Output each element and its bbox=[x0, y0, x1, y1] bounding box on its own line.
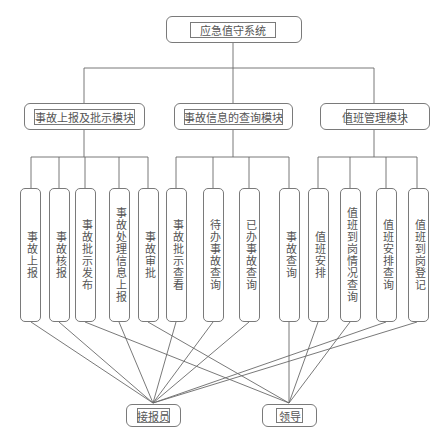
leaf-node-duty-schedule: 值班安排 bbox=[308, 188, 329, 322]
leaf-node-schedule-query: 值班安排查询 bbox=[376, 188, 397, 322]
actor-label-receiver: 接报员 bbox=[137, 408, 170, 423]
leaf-node-done-query: 已办事故查询 bbox=[239, 188, 260, 322]
leaf-label: 已办事故查询 bbox=[244, 219, 256, 291]
leaf-label: 值班安排查询 bbox=[381, 219, 393, 291]
leaf-node-incident-approve: 事故审批 bbox=[138, 188, 159, 322]
leaf-label: 事故查询 bbox=[284, 231, 296, 279]
leaf-node-instruction-publish: 事故批示发布 bbox=[75, 188, 96, 322]
module-label-incident-query: 事故信息的查询模块 bbox=[184, 109, 283, 125]
leaf-label: 事故批示发布 bbox=[80, 219, 92, 291]
leaf-node-pending-query: 待办事故查询 bbox=[203, 188, 224, 322]
actor-label-leader: 领导 bbox=[276, 408, 303, 423]
leaf-label: 事故核报 bbox=[54, 231, 66, 279]
leaf-label: 值班安排 bbox=[313, 231, 325, 279]
leaf-node-instruction-view: 事故批示查看 bbox=[166, 188, 187, 322]
leaf-label: 事故批示查看 bbox=[171, 219, 183, 291]
leaf-node-incident-report: 事故上报 bbox=[20, 188, 41, 322]
leaf-label: 事故处理信息上报 bbox=[114, 207, 126, 303]
leaf-label: 事故上报 bbox=[25, 231, 37, 279]
leaf-node-attendance-register: 值班到岗登记 bbox=[408, 188, 429, 322]
leaf-label: 事故审批 bbox=[143, 231, 155, 279]
leaf-node-incident-query: 事故查询 bbox=[279, 188, 300, 322]
root-node-label: 应急值守系统 bbox=[190, 22, 276, 38]
module-label-duty-management: 值班管理模块 bbox=[346, 109, 404, 125]
leaf-label: 待办事故查询 bbox=[208, 219, 220, 291]
leaf-label: 值班到岗登记 bbox=[413, 219, 425, 291]
module-label-incident-report: 事故上报及批示模块 bbox=[34, 109, 135, 125]
leaf-label: 值班到岗情况查询 bbox=[345, 207, 357, 303]
leaf-node-attendance-query: 值班到岗情况查询 bbox=[340, 188, 361, 322]
leaf-node-incident-verify: 事故核报 bbox=[49, 188, 70, 322]
leaf-node-handling-report: 事故处理信息上报 bbox=[109, 188, 130, 322]
